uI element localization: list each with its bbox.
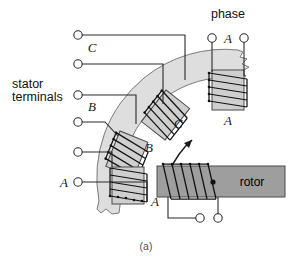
stator-terminals-label-line2: terminals [12, 90, 63, 104]
rotor-lead-1 [168, 197, 196, 218]
stator-terminal-c1[interactable] [74, 31, 82, 39]
figure-canvas: phase A A C [0, 0, 293, 264]
stator-terminals-label-line1: stator [12, 77, 43, 91]
stator-terminal-group [74, 31, 82, 186]
phase-label: phase [211, 7, 245, 21]
stator-terminal-a1[interactable] [74, 148, 82, 156]
rotor-group: rotor [157, 163, 285, 223]
machine-diagram-svg: phase A A C [0, 0, 293, 264]
phase-terminal-left[interactable] [208, 34, 216, 42]
phase-c-terminal-label: C [88, 40, 97, 55]
stator-terminal-b1[interactable] [74, 91, 82, 99]
stator-terminal-c2[interactable] [74, 60, 82, 68]
phase-b-terminal-label: B [88, 99, 96, 114]
figure-caption: (a) [140, 240, 153, 252]
rotor-polarity-dot [210, 179, 215, 184]
rotor-terminal-1[interactable] [196, 214, 204, 222]
phase-a-stator-coil-group [109, 167, 147, 204]
phase-terminal-right[interactable] [240, 34, 248, 42]
stator-terminal-a2[interactable] [74, 178, 82, 186]
phase-a-top-label: A [223, 31, 232, 46]
rotor-label: rotor [240, 175, 265, 189]
stator-terminal-b2[interactable] [74, 118, 82, 126]
phase-c-coil-label: C [174, 116, 183, 131]
phase-a-terminal-label: A [59, 175, 68, 190]
rotor-terminal-2[interactable] [214, 214, 222, 222]
phase-a-coil-label: A [223, 113, 232, 128]
phase-b-coil-label: B [145, 140, 153, 155]
